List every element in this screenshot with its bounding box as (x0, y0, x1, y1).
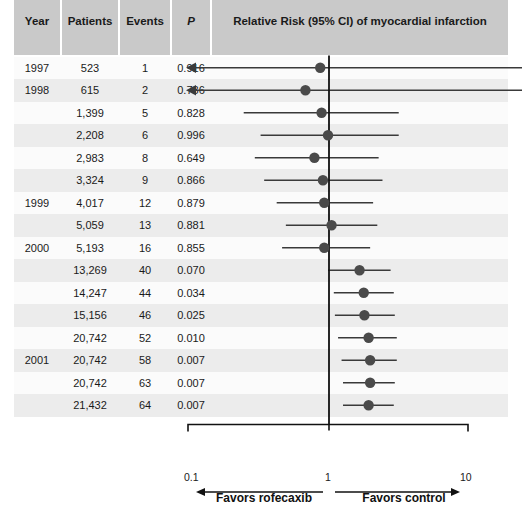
forest-plot-figure: Year Patients Events P Relative Risk (95… (0, 0, 522, 515)
cell-patients: 5,193 (62, 237, 118, 260)
cell-patients: 13,269 (62, 259, 118, 282)
cell-patients: 5,059 (62, 214, 118, 237)
cell-year (14, 259, 60, 282)
cell-events: 52 (120, 327, 170, 350)
column-header-events: Events (120, 0, 170, 42)
cell-patients: 20,742 (62, 349, 118, 372)
axis-tick-label-high: 10 (460, 471, 472, 483)
cell-p: 0.034 (172, 282, 210, 305)
cell-year (14, 282, 60, 305)
cell-events: 64 (120, 394, 170, 417)
cell-year (14, 124, 60, 147)
cell-events: 63 (120, 372, 170, 395)
cell-p: 0.007 (172, 349, 210, 372)
cell-p: 0.649 (172, 147, 210, 170)
cell-events: 9 (120, 169, 170, 192)
cell-year (14, 394, 60, 417)
cell-events: 2 (120, 79, 170, 102)
cell-patients: 3,324 (62, 169, 118, 192)
cell-events: 58 (120, 349, 170, 372)
cell-events: 8 (120, 147, 170, 170)
cell-events: 40 (120, 259, 170, 282)
cell-patients: 20,742 (62, 372, 118, 395)
x-axis-bracket (188, 425, 468, 432)
cell-p: 0.828 (172, 102, 210, 125)
cell-patients: 2,208 (62, 124, 118, 147)
cell-events: 16 (120, 237, 170, 260)
axis-tick-label-low: 0.1 (184, 471, 199, 483)
cell-year: 1999 (14, 192, 60, 215)
cell-patients: 2,983 (62, 147, 118, 170)
cell-events: 13 (120, 214, 170, 237)
header-column-divider (60, 13, 62, 55)
header-column-divider (170, 13, 172, 55)
cell-p: 0.070 (172, 259, 210, 282)
cell-year (14, 372, 60, 395)
cell-events: 12 (120, 192, 170, 215)
cell-p: 0.007 (172, 394, 210, 417)
cell-year (14, 102, 60, 125)
cell-patients: 4,017 (62, 192, 118, 215)
cell-year: 1998 (14, 79, 60, 102)
cell-patients: 615 (62, 79, 118, 102)
column-header-plot-title: Relative Risk (95% CI) of myocardial inf… (212, 0, 508, 42)
cell-events: 46 (120, 304, 170, 327)
cell-year: 1997 (14, 57, 60, 80)
cell-p: 0.855 (172, 237, 210, 260)
column-header-p: P (172, 0, 210, 42)
cell-patients: 523 (62, 57, 118, 80)
cell-year (14, 147, 60, 170)
favors-right-label: Favors control (340, 491, 468, 505)
column-header-year: Year (14, 0, 60, 42)
cell-year (14, 327, 60, 350)
axis-tick-label-mid: 1 (325, 471, 331, 483)
cell-year: 2000 (14, 237, 60, 260)
column-header-patients: Patients (62, 0, 118, 42)
cell-events: 6 (120, 124, 170, 147)
cell-year (14, 169, 60, 192)
cell-events: 5 (120, 102, 170, 125)
cell-patients: 14,247 (62, 282, 118, 305)
cell-p: 0.996 (172, 124, 210, 147)
column-header-p-text: P (187, 15, 195, 27)
cell-year (14, 214, 60, 237)
favors-left-label: Favors rofecaxib (200, 491, 328, 505)
cell-p: 0.007 (172, 372, 210, 395)
cell-patients: 21,432 (62, 394, 118, 417)
header-column-divider (210, 13, 212, 55)
cell-p: 0.025 (172, 304, 210, 327)
cell-year: 2001 (14, 349, 60, 372)
cell-p: 0.916 (172, 57, 210, 80)
header-column-divider (118, 13, 120, 55)
cell-year (14, 304, 60, 327)
cell-events: 44 (120, 282, 170, 305)
cell-p: 0.736 (172, 79, 210, 102)
cell-patients: 1,399 (62, 102, 118, 125)
cell-p: 0.879 (172, 192, 210, 215)
cell-events: 1 (120, 57, 170, 80)
cell-p: 0.866 (172, 169, 210, 192)
cell-p: 0.881 (172, 214, 210, 237)
cell-patients: 15,156 (62, 304, 118, 327)
cell-p: 0.010 (172, 327, 210, 350)
cell-patients: 20,742 (62, 327, 118, 350)
